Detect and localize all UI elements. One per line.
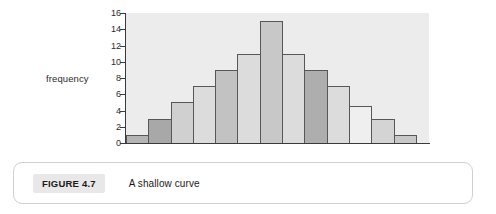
y-axis-tick-mark — [120, 29, 125, 30]
bar — [193, 86, 216, 143]
bar — [215, 70, 238, 143]
figure-caption-box: FIGURE 4.7 A shallow curve — [13, 162, 473, 204]
y-axis-tick-mark — [120, 111, 125, 112]
histogram-chart: 1614121086420 — [105, 12, 430, 146]
bar — [126, 135, 149, 143]
bar — [327, 86, 350, 143]
bar — [171, 102, 194, 143]
y-axis-tick-mark — [120, 46, 125, 47]
bar — [371, 119, 394, 143]
bar — [282, 54, 305, 143]
bar — [260, 21, 283, 143]
y-axis-tick-mark — [120, 62, 125, 63]
y-axis-tick-mark — [120, 13, 125, 14]
bar — [304, 70, 327, 143]
y-axis-tick-mark — [120, 143, 125, 144]
figure-number-badge: FIGURE 4.7 — [33, 174, 105, 193]
y-axis-tick-mark — [120, 94, 125, 95]
bar — [148, 119, 171, 143]
y-axis-tick-labels: 1614121086420 — [105, 12, 121, 143]
y-axis-tick-mark — [120, 78, 125, 79]
bar — [237, 54, 260, 143]
plot-area — [126, 13, 429, 143]
y-axis-title: frequency — [46, 73, 89, 84]
bar — [394, 135, 417, 143]
figure-region: frequency 1614121086420 — [0, 0, 496, 155]
figure-caption-text: A shallow curve — [129, 178, 200, 189]
y-axis-tick-mark — [120, 127, 125, 128]
bar — [349, 106, 372, 143]
x-axis-line — [125, 143, 430, 144]
bar-series — [126, 13, 429, 143]
